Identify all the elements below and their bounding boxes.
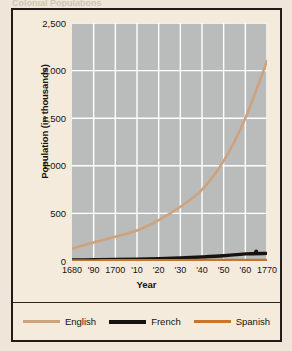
x-tick-label: 1770: [254, 265, 280, 275]
legend-label: Spanish: [236, 317, 270, 327]
y-tick-label: 2,500: [16, 19, 66, 28]
legend-label: English: [65, 317, 96, 327]
gridlines: [72, 23, 267, 261]
x-axis-title: Year: [13, 279, 280, 290]
y-tick-label: 1,500: [16, 114, 66, 123]
plot-svg: [72, 23, 267, 261]
legend-item-french[interactable]: French: [109, 317, 181, 327]
legend-swatch-english: [23, 320, 60, 323]
legend-swatch-spanish: [194, 320, 231, 323]
chart-frame: Population (in thousands) 2,5002,0001,50…: [11, 8, 282, 342]
cut-off-title: Colonial Populations: [12, 0, 142, 7]
legend-item-english[interactable]: English: [23, 317, 96, 327]
y-tick-label: 2,000: [16, 66, 66, 75]
chart-legend: EnglishFrenchSpanish: [13, 303, 280, 340]
plot-region: Population (in thousands) 2,5002,0001,50…: [13, 10, 280, 293]
series-lines: [72, 61, 267, 260]
series-line-english: [72, 61, 267, 249]
legend-swatch-french: [109, 320, 146, 324]
french-endpoint-marker: [254, 249, 258, 253]
legend-item-spanish[interactable]: Spanish: [194, 317, 270, 327]
y-tick-label: 500: [16, 209, 66, 218]
annotation-markers: [254, 249, 258, 253]
plot-area: [72, 23, 267, 261]
x-axis-ticks: 1680'901700'10'20'30'40'50'601770: [68, 265, 273, 277]
chart-figure: Colonial Populations Population (in thou…: [0, 0, 292, 351]
legend-label: French: [151, 317, 181, 327]
y-tick-label: 1,000: [16, 161, 66, 170]
